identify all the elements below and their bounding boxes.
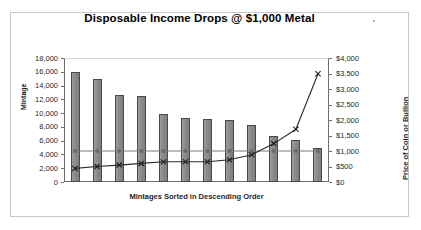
x-axis-label: Mintages Sorted in Descending Order — [64, 192, 329, 201]
y-axis-right-tick-mark — [329, 105, 332, 106]
y-axis-right-tick-mark — [329, 89, 332, 90]
marker-square — [73, 149, 77, 153]
y-axis-right-tick-label: $1,500 — [336, 131, 376, 140]
y-axis-right-label: Price of Coin or Bullion — [401, 97, 410, 180]
marker-x — [293, 127, 298, 132]
y-axis-left-tick-label: 4,000 — [22, 150, 58, 159]
marker-square — [316, 149, 320, 153]
marker-square — [250, 149, 254, 153]
y-axis-right-tick-label: $3,000 — [336, 85, 376, 94]
y-axis-right-tick-mark — [329, 167, 332, 168]
line-rising-coin — [75, 74, 318, 169]
y-axis-right-tick-mark — [329, 136, 332, 137]
title-decoration-dot — [373, 20, 375, 22]
y-axis-right-tick-mark — [329, 151, 332, 152]
y-axis-left-tick-label: 8,000 — [22, 122, 58, 131]
marker-square — [95, 149, 99, 153]
chart-title: Disposable Income Drops @ $1,000 Metal — [0, 12, 399, 24]
y-axis-left-tick-mark — [61, 182, 64, 183]
marker-square — [294, 149, 298, 153]
y-axis-left-tick-label: 2,000 — [22, 164, 58, 173]
y-axis-right-tick-label: $2,000 — [336, 116, 376, 125]
marker-square — [206, 149, 210, 153]
y-axis-left-tick-label: 12,000 — [22, 95, 58, 104]
y-axis-right-tick-label: $1,000 — [336, 147, 376, 156]
y-axis-left-tick-label: 14,000 — [22, 81, 58, 90]
y-axis-right-tick-mark — [329, 74, 332, 75]
marker-square — [140, 149, 144, 153]
marker-x — [315, 71, 320, 76]
y-axis-left-tick-label: 6,000 — [22, 136, 58, 145]
line-series-layer — [64, 58, 329, 182]
y-axis-left-tick-label: 16,000 — [22, 67, 58, 76]
y-axis-right-tick-mark — [329, 182, 332, 183]
y-axis-right-tick-label: $3,500 — [336, 69, 376, 78]
plot-area — [64, 58, 329, 182]
y-axis-left-tick-label: 10,000 — [22, 109, 58, 118]
marker-square — [228, 149, 232, 153]
y-axis-right-tick-label: $0 — [336, 178, 376, 187]
marker-square — [272, 149, 276, 153]
marker-square — [162, 149, 166, 153]
y-axis-left-tick-label: 18,000 — [22, 54, 58, 63]
marker-square — [184, 149, 188, 153]
y-axis-right-tick-mark — [329, 120, 332, 121]
y-axis-right-tick-mark — [329, 58, 332, 59]
y-axis-right-tick-label: $2,500 — [336, 100, 376, 109]
y-axis-left-tick-label: 0 — [22, 178, 58, 187]
y-axis-right-tick-label: $4,000 — [336, 54, 376, 63]
y-axis-right-tick-label: $500 — [336, 162, 376, 171]
marker-x — [271, 141, 276, 146]
marker-square — [117, 149, 121, 153]
